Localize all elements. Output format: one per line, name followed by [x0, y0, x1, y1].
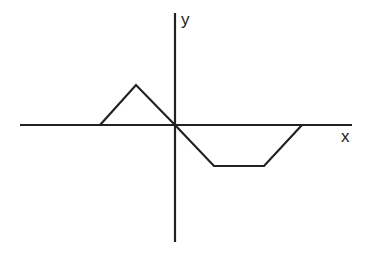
y-axis-label: y: [181, 10, 190, 29]
x-axis-label: x: [341, 127, 350, 146]
graph-canvas: y x: [0, 0, 373, 255]
